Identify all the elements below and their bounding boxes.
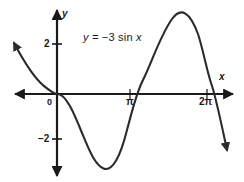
equation-lhs: y = bbox=[83, 31, 102, 43]
origin-label: 0 bbox=[47, 98, 52, 107]
y-tick-label-2: 2 bbox=[44, 39, 50, 49]
equation-label: y = −3 sin x bbox=[83, 32, 142, 43]
sine-graph-figure: y = −3 sin x 2 −2 π 2π 0 y x bbox=[0, 0, 244, 182]
x-axis-label: x bbox=[219, 72, 225, 82]
graph-canvas bbox=[0, 0, 244, 182]
x-tick-label-pi: π bbox=[126, 97, 134, 107]
y-axis-label: y bbox=[62, 9, 68, 19]
equation-rhs: −3 sin bbox=[102, 31, 136, 43]
x-tick-label-2pi: 2π bbox=[199, 97, 212, 107]
y-tick-label-minus-2: −2 bbox=[38, 134, 49, 144]
equation-variable: x bbox=[136, 31, 142, 43]
